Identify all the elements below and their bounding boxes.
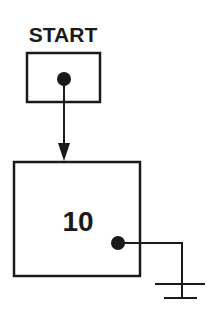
null-pointer-line: [118, 243, 182, 298]
node-value: 10: [62, 206, 93, 237]
ground-icon: [155, 284, 205, 298]
linked-list-diagram: START 10: [0, 0, 212, 311]
start-label: START: [29, 23, 98, 46]
arrowhead-icon: [58, 143, 70, 161]
